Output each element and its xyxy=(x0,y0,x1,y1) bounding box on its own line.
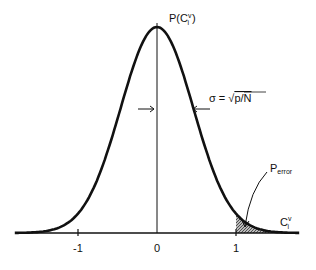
tick-label-0: 0 xyxy=(154,242,160,254)
x-axis-label: Cvi xyxy=(280,215,292,230)
tick-label-1: 1 xyxy=(233,242,239,254)
error-label-text: Perror xyxy=(270,162,293,175)
sigma-width-arrows xyxy=(138,106,210,112)
sigma-label: σ = √p/N xyxy=(209,92,252,104)
error-arrow xyxy=(245,172,267,226)
gaussian-diagram: -1 0 1 P(Cvi) Cvi σ = √p/N Perror xyxy=(0,0,316,270)
tick-label-minus-1: -1 xyxy=(73,242,83,254)
y-axis-label: P(Cvi) xyxy=(169,12,196,26)
